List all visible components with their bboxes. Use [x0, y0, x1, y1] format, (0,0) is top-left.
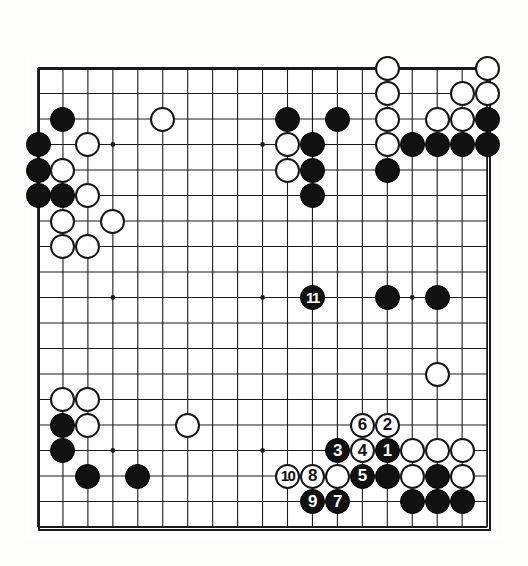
black-stone[interactable]	[450, 489, 475, 514]
move-number-label: 3	[333, 442, 342, 459]
white-stone[interactable]	[450, 81, 475, 106]
stone-layer: 1162341108597	[26, 56, 499, 539]
move-stone-3[interactable]: 3	[325, 438, 350, 463]
black-stone[interactable]	[50, 438, 75, 463]
black-stone[interactable]	[425, 489, 450, 514]
white-stone[interactable]	[100, 209, 125, 234]
white-stone[interactable]	[425, 362, 450, 387]
move-number-label: 9	[308, 493, 317, 510]
black-stone[interactable]	[375, 285, 400, 310]
white-stone[interactable]	[325, 464, 350, 489]
white-stone[interactable]	[75, 413, 100, 438]
black-stone[interactable]	[75, 464, 100, 489]
white-stone[interactable]	[150, 107, 175, 132]
white-stone[interactable]	[375, 107, 400, 132]
black-stone[interactable]	[400, 489, 425, 514]
black-stone[interactable]	[475, 132, 500, 157]
move-stone-2[interactable]: 2	[375, 413, 400, 438]
white-stone[interactable]	[50, 234, 75, 259]
black-stone[interactable]	[300, 132, 325, 157]
white-stone[interactable]	[50, 158, 75, 183]
move-stone-5[interactable]: 5	[350, 464, 375, 489]
white-stone[interactable]	[50, 387, 75, 412]
black-stone[interactable]	[50, 413, 75, 438]
move-number-label: 10	[281, 468, 295, 483]
move-number-label: 6	[358, 416, 367, 433]
go-board[interactable]: 1162341108597	[26, 56, 499, 539]
black-stone[interactable]	[475, 107, 500, 132]
black-stone[interactable]	[50, 107, 75, 132]
white-stone[interactable]	[275, 132, 300, 157]
move-stone-4[interactable]: 4	[350, 438, 375, 463]
black-stone[interactable]	[26, 132, 51, 157]
move-stone-6[interactable]: 6	[350, 413, 375, 438]
white-stone[interactable]	[450, 464, 475, 489]
black-stone[interactable]	[300, 183, 325, 208]
black-stone[interactable]	[375, 464, 400, 489]
black-stone[interactable]	[125, 464, 150, 489]
white-stone[interactable]	[75, 183, 100, 208]
white-stone[interactable]	[75, 234, 100, 259]
white-stone[interactable]	[375, 132, 400, 157]
black-stone[interactable]	[450, 132, 475, 157]
black-stone[interactable]	[425, 464, 450, 489]
move-number-label: 1	[383, 442, 392, 459]
white-stone[interactable]	[75, 132, 100, 157]
white-stone[interactable]	[450, 438, 475, 463]
white-stone[interactable]	[475, 81, 500, 106]
move-number-label: 11	[306, 290, 319, 305]
go-board-container: 1162341108597	[0, 0, 528, 566]
black-stone[interactable]	[300, 158, 325, 183]
black-stone[interactable]	[50, 183, 75, 208]
white-stone[interactable]	[450, 107, 475, 132]
white-stone[interactable]	[425, 438, 450, 463]
white-stone[interactable]	[175, 413, 200, 438]
move-number-label: 2	[383, 416, 392, 433]
move-number-label: 7	[333, 493, 342, 510]
diagram-page: 1162341108597	[0, 0, 528, 566]
white-stone[interactable]	[475, 56, 500, 81]
white-stone[interactable]	[400, 464, 425, 489]
move-number-label: 4	[358, 442, 367, 459]
black-stone[interactable]	[375, 158, 400, 183]
white-stone[interactable]	[275, 158, 300, 183]
white-stone[interactable]	[400, 438, 425, 463]
black-stone[interactable]	[425, 132, 450, 157]
black-stone[interactable]	[26, 158, 51, 183]
move-stone-11[interactable]: 11	[300, 285, 325, 310]
white-stone[interactable]	[425, 107, 450, 132]
black-stone[interactable]	[275, 107, 300, 132]
black-stone[interactable]	[325, 107, 350, 132]
black-stone[interactable]	[400, 132, 425, 157]
move-stone-10[interactable]: 10	[275, 464, 300, 489]
move-stone-1[interactable]: 1	[375, 438, 400, 463]
white-stone[interactable]	[75, 387, 100, 412]
move-number-label: 5	[358, 467, 367, 484]
white-stone[interactable]	[50, 209, 75, 234]
black-stone[interactable]	[26, 183, 51, 208]
move-stone-7[interactable]: 7	[325, 489, 350, 514]
white-stone[interactable]	[375, 56, 400, 81]
move-stone-9[interactable]: 9	[300, 489, 325, 514]
black-stone[interactable]	[425, 285, 450, 310]
move-number-label: 8	[308, 467, 317, 484]
move-stone-8[interactable]: 8	[300, 464, 325, 489]
white-stone[interactable]	[375, 81, 400, 106]
